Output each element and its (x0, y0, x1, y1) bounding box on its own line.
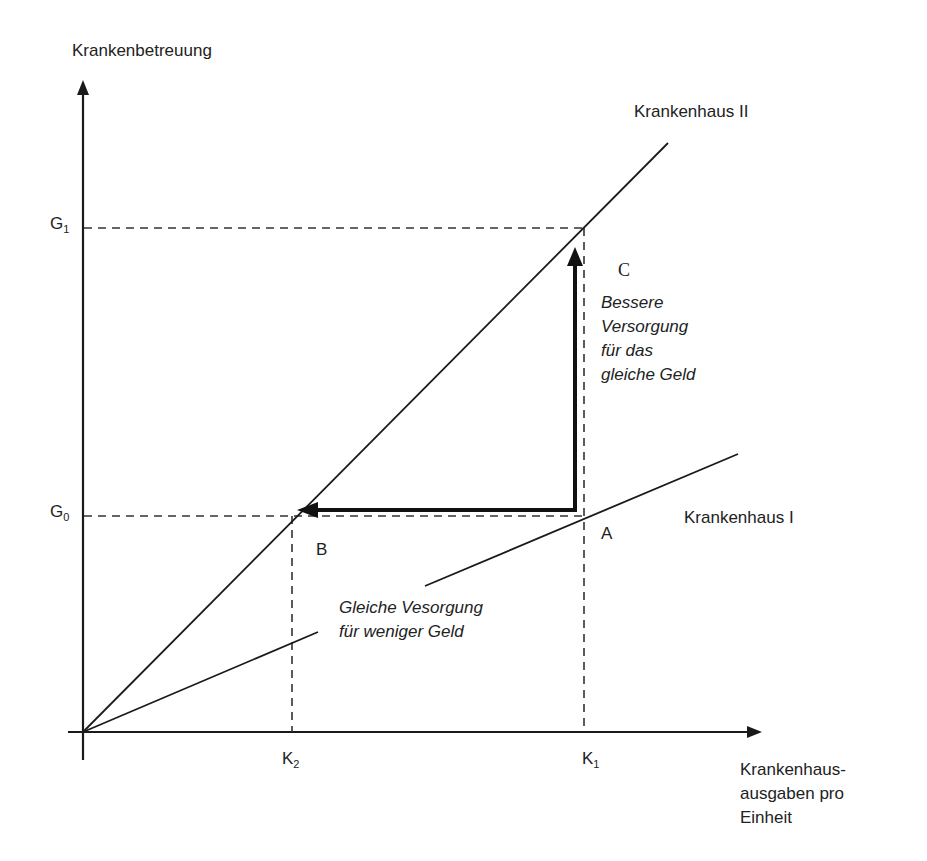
point-b-label: B (316, 539, 327, 561)
arrow-up-icon (567, 247, 583, 266)
same-care-annotation: Gleiche Vesorgung für weniger Geld (339, 596, 483, 644)
movement-arrows (297, 247, 583, 518)
horizontal-arrow (313, 508, 575, 510)
diagram-canvas (0, 0, 927, 861)
x-axis (68, 726, 762, 738)
y-axis (77, 80, 89, 760)
hospital-2-label: Krankenhaus II (634, 101, 748, 123)
point-a-label: A (601, 523, 612, 545)
hospital-1-label: Krankenhaus I (684, 507, 794, 529)
y-axis-label: Krankenbetreuung (72, 40, 212, 62)
hospital-1-line (83, 454, 738, 732)
tick-g0: G0 (50, 501, 69, 524)
x-axis-label: Krankenhaus- ausgaben pro Einheit (740, 758, 846, 830)
y-axis-arrow-icon (77, 80, 89, 95)
point-c-label: C (618, 259, 630, 281)
tick-k1: K1 (582, 748, 599, 771)
better-care-annotation: Bessere Versorgung für das gleiche Geld (601, 291, 696, 387)
tick-k2: K2 (282, 748, 299, 771)
x-axis-arrow-icon (747, 726, 762, 738)
tick-g1: G1 (50, 213, 69, 236)
